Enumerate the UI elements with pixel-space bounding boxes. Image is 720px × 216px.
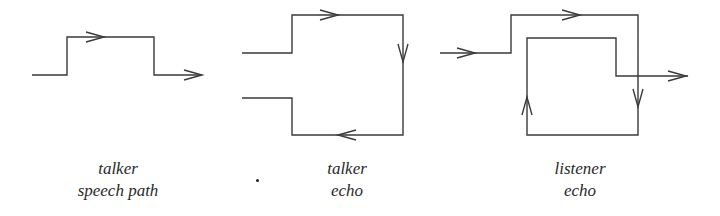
- stray-dot: [256, 179, 259, 182]
- label-line-1: talker: [267, 158, 427, 180]
- talker-echo-label: talker echo: [267, 158, 427, 202]
- talker-speech-path-diagram: [32, 32, 202, 80]
- label-line-1: talker: [38, 158, 198, 180]
- label-line-2: echo: [267, 180, 427, 202]
- label-line-2: speech path: [38, 180, 198, 202]
- speech-path-line: [32, 37, 202, 75]
- talker-speech-path-label: talker speech path: [38, 158, 198, 202]
- listener-echo-label: listener echo: [500, 158, 660, 202]
- echo-path-line: [242, 15, 403, 135]
- label-line-2: echo: [500, 180, 660, 202]
- listener-echo-path-line: [440, 15, 688, 135]
- talker-echo-diagram: [242, 10, 408, 140]
- listener-echo-diagram: [440, 10, 688, 135]
- label-line-1: listener: [500, 158, 660, 180]
